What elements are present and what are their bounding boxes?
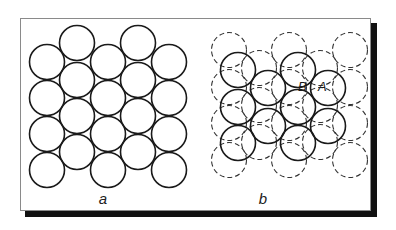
packing-diagram: BA: [0, 0, 396, 230]
solid-circle: [251, 109, 286, 144]
solid-circle: [251, 71, 286, 106]
solid-circle: [91, 45, 126, 80]
solid-circle: [221, 53, 256, 88]
solid-circle: [60, 99, 95, 134]
solid-circle: [30, 117, 65, 152]
panel-a-square-packing: [30, 26, 187, 188]
solid-circle: [60, 26, 95, 61]
solid-circle: [221, 90, 256, 125]
solid-circle: [152, 81, 187, 116]
dashed-circle: [333, 33, 368, 68]
solid-circle: [121, 135, 156, 170]
solid-circle: [91, 81, 126, 116]
solid-circle: [221, 126, 256, 161]
solid-circle: [30, 153, 65, 188]
solid-circle: [121, 99, 156, 134]
solid-circle: [60, 63, 95, 98]
solid-circle: [152, 117, 187, 152]
solid-circle: [152, 45, 187, 80]
solid-circle: [121, 26, 156, 61]
solid-circle: [60, 135, 95, 170]
solid-circle: [152, 153, 187, 188]
dashed-circle: [333, 143, 368, 178]
solid-circle: [121, 63, 156, 98]
solid-circle: [311, 71, 346, 106]
solid-circle: [91, 117, 126, 152]
solid-circle: [91, 153, 126, 188]
dashed-circle: [333, 70, 368, 105]
solid-circle: [281, 126, 316, 161]
solid-circle: [281, 90, 316, 125]
solid-circle: [30, 81, 65, 116]
site-label-a: A: [317, 79, 327, 94]
dashed-circle: [242, 125, 277, 160]
panel-a-label: a: [99, 190, 107, 207]
site-label-b: B: [298, 79, 307, 94]
panel-b-label: b: [259, 190, 267, 207]
dashed-circle: [212, 106, 247, 141]
dashed-circle: [272, 33, 307, 68]
solid-circle: [30, 45, 65, 80]
dashed-circle: [212, 33, 247, 68]
